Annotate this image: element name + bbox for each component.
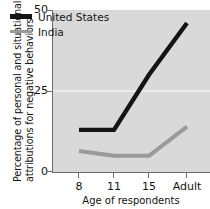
x-axis-label: Age of respondents xyxy=(52,195,210,206)
chart-legend: United States India xyxy=(10,9,130,39)
legend-label-united-states: United States xyxy=(38,11,109,23)
x-tick-label-15: 15 xyxy=(142,180,156,193)
x-tick-label-adult: Adult xyxy=(173,180,202,193)
x-tick-label-11: 11 xyxy=(107,180,121,193)
y-tick-label-0: 0 xyxy=(28,165,48,178)
legend-label-india: India xyxy=(38,26,64,38)
x-tick-label-8: 8 xyxy=(76,180,83,193)
x-tick-mark-11 xyxy=(113,172,114,178)
y-tick-label-25: 25 xyxy=(28,84,48,97)
legend-swatch-india xyxy=(10,30,32,34)
x-tick-mark-adult xyxy=(186,172,187,178)
x-tick-mark-8 xyxy=(78,172,79,178)
legend-swatch-united-states xyxy=(10,14,32,19)
x-tick-mark-15 xyxy=(148,172,149,178)
legend-item-united-states: United States xyxy=(10,9,130,24)
legend-item-india: India xyxy=(10,24,130,39)
chart-figure: Percentage of personal and situational a… xyxy=(0,0,210,209)
